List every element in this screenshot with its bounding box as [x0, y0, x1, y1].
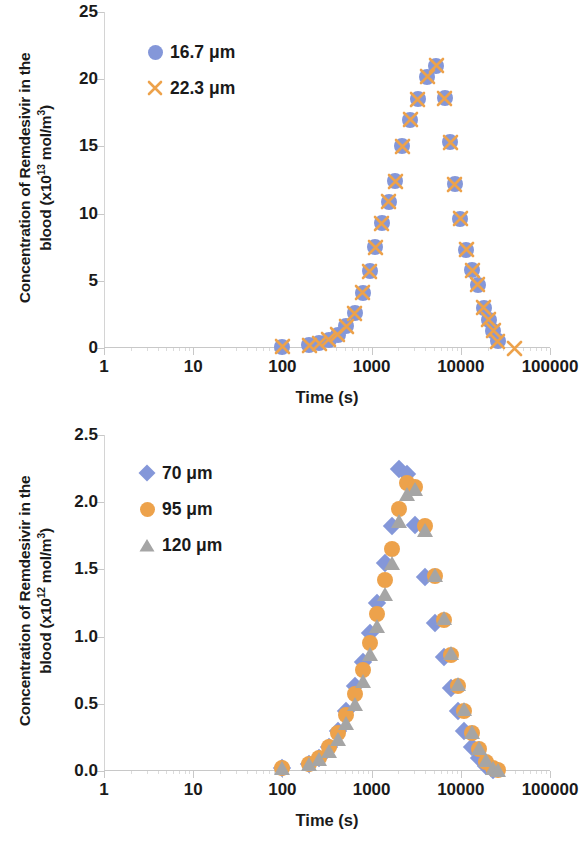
x-tick [282, 771, 283, 778]
x-tick-minor [457, 771, 458, 774]
x-tick-minor [189, 771, 190, 774]
data-point [347, 697, 363, 711]
x-tick-minor [269, 771, 270, 774]
y-tick-label: 0.0 [74, 761, 98, 781]
legend-top: 16.7 μm 22.3 μm [142, 34, 235, 106]
data-point [310, 334, 329, 353]
data-point [338, 318, 354, 334]
y-tick-label: 2.5 [74, 425, 98, 445]
circle-marker-icon [142, 45, 168, 60]
x-tick-minor [503, 771, 504, 774]
data-point [468, 275, 487, 294]
data-point [458, 242, 474, 258]
y-axis-exponent: 12 [36, 587, 47, 598]
data-point [311, 750, 327, 766]
data-point [426, 614, 444, 632]
data-point [464, 725, 480, 739]
y-tick-label: 2.0 [74, 492, 98, 512]
y-axis-title-line1: Concentration of Remdesivir in the [16, 475, 33, 726]
data-point [330, 725, 346, 741]
legend-bottom: 70 μm 95 μm 120 μm [134, 455, 222, 563]
data-point [381, 194, 397, 210]
y-axis-title-bottom: Concentration of Remdesivir in the blood… [0, 423, 72, 778]
y-tick-label: 10 [79, 204, 98, 224]
x-tick-minor [414, 348, 415, 351]
data-point [410, 91, 426, 107]
data-point [311, 752, 327, 766]
data-point [443, 646, 459, 660]
data-point [436, 611, 452, 625]
data-point [345, 304, 364, 323]
data-point [330, 327, 346, 343]
data-point [450, 678, 466, 694]
data-point [362, 263, 378, 279]
x-tick-minor [166, 348, 167, 351]
data-point [360, 623, 378, 641]
x-tick-minor [158, 771, 159, 774]
data-point [401, 110, 420, 129]
x-tick-label: 10000 [437, 357, 484, 377]
x-tick-minor [325, 348, 326, 351]
y-tick-label: 15 [79, 136, 98, 156]
data-point [406, 516, 424, 534]
x-tick-minor [263, 771, 264, 774]
data-point [416, 568, 434, 586]
data-point [417, 518, 433, 534]
x-tick-minor [523, 348, 524, 351]
x-tick-minor [274, 348, 275, 351]
legend-item: 16.7 μm [142, 34, 235, 70]
x-tick-minor [515, 348, 516, 351]
cross-marker-icon [142, 78, 168, 98]
data-point [337, 701, 355, 719]
y-axis-title-line2-pre: blood (x10 [37, 175, 54, 251]
x-tick-minor [425, 348, 426, 351]
data-point [368, 594, 386, 612]
data-point [319, 738, 337, 756]
y-axis-unit-exponent: 3 [36, 533, 47, 538]
x-tick-minor [131, 771, 132, 774]
x-tick-minor [189, 348, 190, 351]
y-tick-label: 5 [89, 271, 98, 291]
data-point [449, 701, 467, 719]
chart-panel-top: Concentration of Remdesivir in the blood… [0, 0, 585, 423]
x-tick-minor [336, 771, 337, 774]
data-point [470, 277, 486, 293]
y-axis-title-line1: Concentration of Remdesivir in the [16, 52, 33, 303]
data-point [478, 754, 494, 770]
plot-area-bottom: 0.00.51.01.52.02.5 110100100010000100000… [104, 435, 550, 771]
data-point [383, 517, 401, 535]
data-point [398, 465, 416, 483]
x-tick-minor [220, 771, 221, 774]
x-tick-minor [530, 348, 531, 351]
x-tick [550, 771, 551, 778]
data-point [394, 138, 410, 154]
y-tick-label: 20 [79, 69, 98, 89]
data-point [366, 238, 385, 257]
y-axis-unit-exponent: 3 [36, 110, 47, 115]
data-point [427, 568, 443, 582]
data-point [355, 285, 371, 301]
data-point [435, 648, 453, 666]
x-tick-minor [503, 348, 504, 351]
x-tick-minor [368, 348, 369, 351]
x-tick-minor [441, 771, 442, 774]
x-tick-minor [434, 771, 435, 774]
y-tick-label: 1.5 [74, 559, 98, 579]
data-point [347, 686, 363, 702]
x-tick [461, 348, 462, 355]
x-tick-minor [398, 348, 399, 351]
data-point [338, 707, 354, 723]
data-point [300, 336, 319, 355]
legend-item: 120 μm [134, 527, 222, 563]
x-tick-minor [457, 348, 458, 351]
legend-label: 95 μm [162, 499, 213, 520]
x-tick-minor [530, 771, 531, 774]
diamond-marker-icon [134, 467, 160, 479]
x-tick-label: 1 [99, 357, 108, 377]
data-point [456, 702, 472, 716]
data-point [456, 703, 472, 719]
x-tick-minor [441, 348, 442, 351]
data-point [442, 678, 460, 696]
x-tick-minor [147, 771, 148, 774]
data-point [445, 175, 464, 194]
